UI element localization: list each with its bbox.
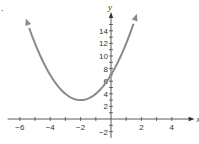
curves bbox=[25, 14, 137, 100]
y-tick-label: 8 bbox=[104, 65, 109, 74]
item-marker: . bbox=[1, 3, 4, 13]
x-tick-label: −6 bbox=[15, 123, 25, 132]
ticks bbox=[20, 25, 172, 132]
y-tick-label: 2 bbox=[104, 102, 109, 111]
y-tick-label: 14 bbox=[99, 27, 108, 36]
x-tick-label: 4 bbox=[170, 123, 175, 132]
x-axis-label: x bbox=[196, 114, 199, 124]
y-axis-label: y bbox=[107, 2, 112, 12]
curve-arrow-left bbox=[25, 18, 31, 26]
x-tick-label: 2 bbox=[139, 123, 144, 132]
y-tick-label: 10 bbox=[99, 52, 108, 61]
y-tick-label: 4 bbox=[104, 90, 109, 99]
curve-arrow-right bbox=[132, 14, 138, 22]
x-tick-label: −4 bbox=[46, 123, 56, 132]
y-axis-arrow bbox=[109, 12, 113, 18]
y-tick-label: 12 bbox=[99, 39, 108, 48]
y-tick-label: −2 bbox=[99, 128, 109, 137]
tick-labels: −6−4−224−22468101214 bbox=[15, 27, 174, 137]
parabola-chart: . xy −6−4−224−22468101214 bbox=[0, 0, 199, 144]
x-axis-arrow bbox=[189, 117, 195, 121]
x-tick-label: −2 bbox=[76, 123, 86, 132]
parabola-curve bbox=[29, 24, 133, 100]
